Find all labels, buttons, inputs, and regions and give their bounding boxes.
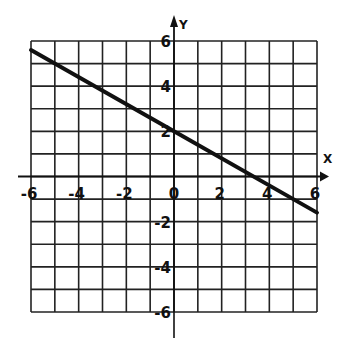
y-axis-label: Y bbox=[178, 18, 188, 32]
y-axis-arrow-icon bbox=[170, 15, 178, 27]
x-tick-label: 0 bbox=[169, 185, 179, 203]
y-tick-label: -4 bbox=[154, 259, 171, 277]
line-chart: XY -6-4-20246642-2-4-6 bbox=[0, 0, 348, 352]
y-tick-label: -2 bbox=[154, 214, 171, 232]
tick-labels: -6-4-20246642-2-4-6 bbox=[21, 33, 321, 322]
x-tick-label: 6 bbox=[310, 185, 320, 203]
y-tick-label: -6 bbox=[154, 304, 171, 322]
x-tick-label: -4 bbox=[68, 185, 85, 203]
x-tick-label: 2 bbox=[214, 185, 224, 203]
x-axis-arrow-icon bbox=[320, 172, 329, 182]
y-tick-label: 6 bbox=[161, 33, 171, 51]
x-tick-label: -6 bbox=[21, 185, 38, 203]
y-tick-label: 4 bbox=[161, 78, 171, 96]
x-tick-label: -2 bbox=[116, 185, 133, 203]
x-axis-label: X bbox=[323, 152, 333, 166]
